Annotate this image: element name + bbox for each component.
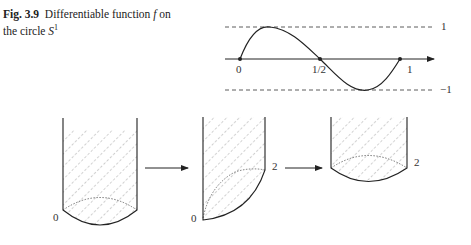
shape-2-cylinder: 0 2 xyxy=(191,110,278,225)
shape-2-label-0: 0 xyxy=(191,212,197,224)
shape-3-cylinder: 2 xyxy=(328,110,420,200)
shape-1-label-0: 0 xyxy=(53,211,59,223)
point-0 xyxy=(238,57,242,61)
x-label-half: 1/2 xyxy=(312,63,326,75)
point-1 xyxy=(398,57,402,61)
x-label-0: 0 xyxy=(236,63,242,75)
shape-2-label-2: 2 xyxy=(272,160,278,172)
function-graph: 0 1/2 1 1 −1 xyxy=(225,20,452,95)
figure-graphics: 0 1/2 1 1 −1 0 0 2 2 xyxy=(0,0,471,245)
lower-bound-label: −1 xyxy=(440,83,452,95)
shape-1-cylinder: 0 xyxy=(53,110,140,240)
shape-3-label-2: 2 xyxy=(414,156,420,168)
x-label-1: 1 xyxy=(407,63,413,75)
point-half xyxy=(318,57,322,61)
upper-bound-label: 1 xyxy=(441,20,447,32)
